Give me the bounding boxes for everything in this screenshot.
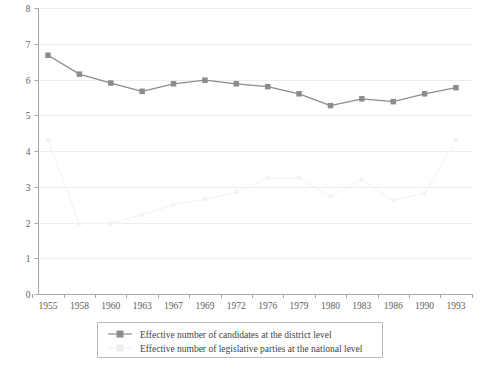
- data-point-marker: [360, 178, 364, 182]
- legend-marker-series-1: [117, 331, 124, 338]
- data-point-marker: [391, 198, 395, 202]
- data-point-marker: [45, 52, 51, 58]
- data-point-marker: [234, 81, 240, 87]
- data-point-marker: [172, 203, 176, 207]
- data-point-marker: [266, 176, 270, 180]
- x-tick-label: 1960: [101, 301, 120, 311]
- x-tick-label: 1980: [321, 301, 340, 311]
- legend-label-series-2: Effective number of legislative parties …: [140, 344, 363, 354]
- y-tick-label: 8: [26, 4, 31, 14]
- data-point-marker: [296, 91, 302, 97]
- y-tick-label: 5: [26, 111, 31, 121]
- y-tick-label: 4: [26, 147, 31, 157]
- data-point-marker: [140, 213, 144, 217]
- y-tick-label: 1: [26, 254, 31, 264]
- data-point-marker: [453, 85, 459, 91]
- legend-marker-series-2: [117, 345, 124, 352]
- data-point-marker: [359, 96, 365, 102]
- x-tick-label: 1967: [164, 301, 183, 311]
- x-tick-label: 1976: [258, 301, 277, 311]
- x-tick-label: 1986: [384, 301, 403, 311]
- data-point-marker: [109, 221, 113, 225]
- data-point-marker: [390, 99, 396, 105]
- x-tick-label: 1963: [133, 301, 152, 311]
- y-tick-label: 2: [26, 219, 31, 229]
- x-tick-label: 1983: [352, 301, 371, 311]
- data-point-marker: [423, 191, 427, 195]
- data-point-marker: [139, 89, 145, 95]
- data-point-marker: [203, 197, 207, 201]
- data-point-marker: [77, 222, 81, 226]
- y-tick-group: 012345678: [26, 4, 39, 300]
- x-tick-label: 1955: [39, 301, 58, 311]
- x-tick-label: 1979: [290, 301, 309, 311]
- x-tick-label: 1969: [195, 301, 214, 311]
- x-tick-label: 1972: [227, 301, 246, 311]
- series-line: [48, 140, 456, 223]
- x-tick-label: 1993: [447, 301, 466, 311]
- x-tick-group: 1955195819601963196719691972197619791980…: [33, 294, 473, 311]
- data-point-marker: [234, 190, 238, 194]
- y-tick-label: 3: [26, 183, 31, 193]
- y-tick-label: 7: [26, 40, 31, 50]
- data-point-marker: [46, 138, 50, 142]
- data-point-marker: [328, 103, 334, 109]
- data-point-marker: [77, 71, 83, 77]
- data-point-marker: [171, 81, 177, 87]
- data-point-marker: [454, 138, 458, 142]
- data-point-marker: [108, 80, 114, 86]
- data-point-marker: [328, 194, 332, 198]
- data-point-marker: [297, 176, 301, 180]
- line-chart-plot: 012345678 195519581960196319671969197219…: [0, 0, 480, 368]
- chart-container: 012345678 195519581960196319671969197219…: [0, 0, 480, 368]
- x-tick-label: 1958: [70, 301, 89, 311]
- y-tick-label: 6: [26, 76, 31, 86]
- data-point-marker: [422, 91, 428, 97]
- data-point-marker: [265, 84, 271, 90]
- legend-label-series-1: Effective number of candidates at the di…: [140, 330, 332, 340]
- gridlines-group: [39, 9, 473, 259]
- data-point-marker: [202, 77, 208, 83]
- y-tick-label: 0: [26, 290, 31, 300]
- legend: Effective number of candidates at the di…: [98, 323, 383, 358]
- x-tick-label: 1990: [415, 301, 434, 311]
